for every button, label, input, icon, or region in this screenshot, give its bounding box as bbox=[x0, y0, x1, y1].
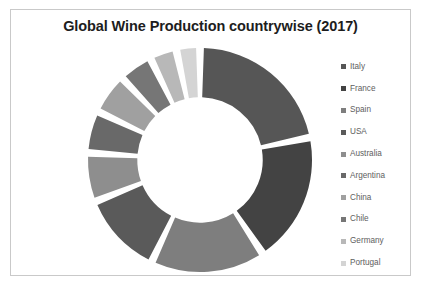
legend-item-spain[interactable]: Spain bbox=[341, 100, 413, 122]
legend-label: Italy bbox=[350, 63, 365, 71]
legend-item-france[interactable]: France bbox=[341, 78, 413, 100]
legend-label: Portugal bbox=[350, 259, 381, 267]
legend-swatch-icon bbox=[341, 217, 346, 222]
doughnut-svg bbox=[86, 46, 314, 274]
doughnut-slice-france[interactable] bbox=[237, 141, 312, 250]
legend-label: Australia bbox=[350, 150, 382, 158]
doughnut-chart bbox=[86, 46, 314, 274]
legend-swatch-icon bbox=[341, 239, 346, 244]
doughnut-slice-portugal[interactable] bbox=[180, 48, 198, 98]
legend-item-australia[interactable]: Australia bbox=[341, 143, 413, 165]
legend-label: USA bbox=[350, 128, 367, 136]
legend-item-germany[interactable]: Germany bbox=[341, 230, 413, 252]
legend-label: Germany bbox=[350, 237, 384, 245]
doughnut-slice-group bbox=[88, 48, 312, 272]
legend-item-chile[interactable]: Chile bbox=[341, 209, 413, 231]
chart-frame: Global Wine Production countrywise (2017… bbox=[10, 9, 411, 276]
legend-item-usa[interactable]: USA bbox=[341, 121, 413, 143]
legend-item-china[interactable]: China bbox=[341, 187, 413, 209]
legend-label: Argentina bbox=[350, 172, 385, 180]
doughnut-slice-usa[interactable] bbox=[97, 185, 171, 259]
legend-swatch-icon bbox=[341, 261, 346, 266]
legend-swatch-icon bbox=[341, 130, 346, 135]
legend-swatch-icon bbox=[341, 108, 346, 113]
chart-legend: ItalyFranceSpainUSAAustraliaArgentinaChi… bbox=[341, 56, 413, 274]
legend-label: China bbox=[350, 194, 371, 202]
chart-title: Global Wine Production countrywise (2017… bbox=[11, 18, 410, 34]
doughnut-slice-italy[interactable] bbox=[202, 48, 309, 145]
legend-swatch-icon bbox=[341, 173, 346, 178]
legend-label: Spain bbox=[350, 106, 371, 114]
legend-swatch-icon bbox=[341, 86, 346, 91]
legend-item-argentina[interactable]: Argentina bbox=[341, 165, 413, 187]
legend-item-portugal[interactable]: Portugal bbox=[341, 252, 413, 274]
legend-swatch-icon bbox=[341, 152, 346, 157]
legend-item-italy[interactable]: Italy bbox=[341, 56, 413, 78]
legend-label: Chile bbox=[350, 215, 369, 223]
legend-swatch-icon bbox=[341, 195, 346, 200]
legend-swatch-icon bbox=[341, 64, 346, 69]
doughnut-slice-spain[interactable] bbox=[156, 213, 260, 272]
legend-label: France bbox=[350, 85, 375, 93]
